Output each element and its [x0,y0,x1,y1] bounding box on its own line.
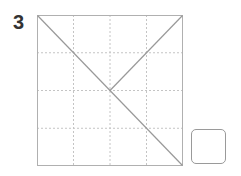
answer-box[interactable] [191,129,226,164]
